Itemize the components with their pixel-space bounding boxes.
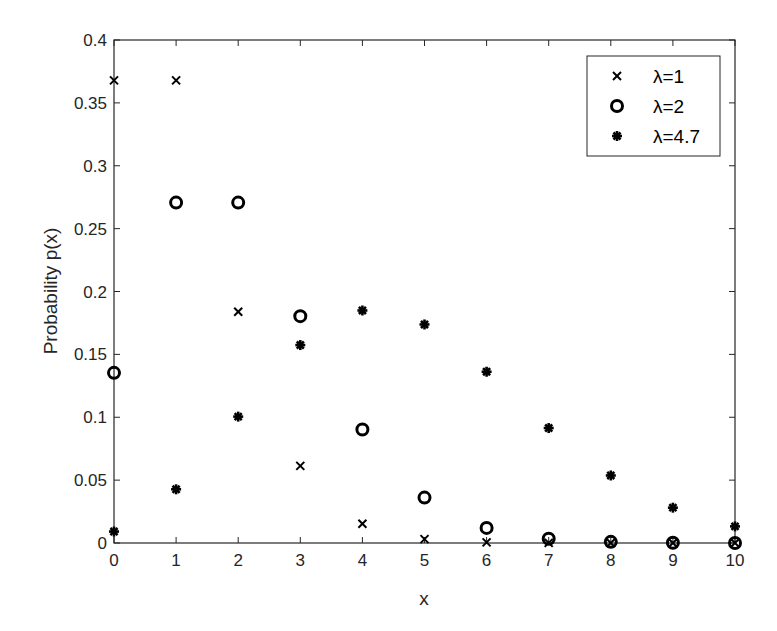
x-tick-labels: 012345678910 <box>109 551 744 570</box>
x-tick-label: 4 <box>358 551 367 570</box>
*-marker <box>295 340 305 350</box>
*-marker <box>233 412 243 422</box>
*-marker <box>606 470 616 480</box>
*-marker <box>171 484 181 494</box>
*-marker <box>482 367 492 377</box>
y-tick-label: 0.25 <box>74 220 107 239</box>
y-tick-label: 0.05 <box>74 471 107 490</box>
x-tick-label: 7 <box>544 551 553 570</box>
legend-label: λ=2 <box>653 96 684 117</box>
*-marker <box>612 131 622 141</box>
y-tick-label: 0 <box>98 534 107 553</box>
*-marker <box>420 319 430 329</box>
x-tick-label: 2 <box>233 551 242 570</box>
*-marker <box>668 503 678 513</box>
y-tick-labels: 00.050.10.150.20.250.30.350.4 <box>74 31 107 553</box>
*-marker <box>357 305 367 315</box>
poisson-chart: 012345678910 00.050.10.150.20.250.30.350… <box>0 0 777 631</box>
x-tick-label: 1 <box>171 551 180 570</box>
y-axis-label: Probability p(x) <box>40 228 61 355</box>
legend-label: λ=4.7 <box>653 126 700 147</box>
legend-label: λ=1 <box>653 66 684 87</box>
x-tick-label: 9 <box>668 551 677 570</box>
y-tick-label: 0.3 <box>83 157 107 176</box>
x-tick-label: 5 <box>420 551 429 570</box>
*-marker <box>730 521 740 531</box>
legend: λ=1λ=2λ=4.7 <box>587 56 720 156</box>
x-tick-label: 10 <box>726 551 745 570</box>
x-axis-label: x <box>419 588 429 609</box>
x-tick-label: 8 <box>606 551 615 570</box>
x-tick-label: 0 <box>109 551 118 570</box>
x-tick-label: 6 <box>482 551 491 570</box>
*-marker <box>109 527 119 537</box>
y-tick-label: 0.15 <box>74 345 107 364</box>
y-tick-label: 0.1 <box>83 408 107 427</box>
y-tick-label: 0.35 <box>74 94 107 113</box>
*-marker <box>544 423 554 433</box>
y-tick-label: 0.2 <box>83 283 107 302</box>
y-tick-label: 0.4 <box>83 31 107 50</box>
x-tick-label: 3 <box>296 551 305 570</box>
